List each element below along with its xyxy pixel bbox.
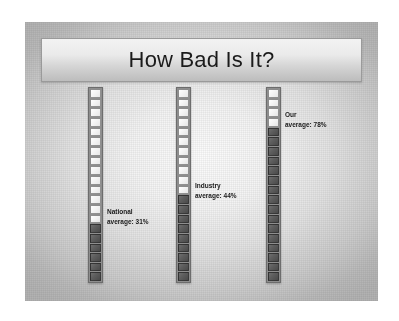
gauge-label-industry: Industry average: 44%	[195, 181, 237, 201]
gauge-segment	[268, 176, 279, 185]
gauge-label-our-line1: Our	[285, 110, 327, 120]
gauge-segment	[178, 99, 189, 108]
gauge-segment	[90, 157, 101, 166]
gauge-segment	[178, 147, 189, 156]
gauge-label-national: National average: 31%	[107, 207, 149, 227]
gauge-segment	[90, 176, 101, 185]
gauge-segment	[268, 195, 279, 204]
gauge-segment	[178, 253, 189, 262]
gauge-segment	[178, 137, 189, 146]
gauge-segment	[90, 205, 101, 214]
gauge-segment	[178, 128, 189, 137]
gauge-segment	[178, 272, 189, 281]
gauge-segment	[178, 157, 189, 166]
gauge-segment	[90, 244, 101, 253]
gauge-segment	[90, 234, 101, 243]
gauge-segment	[178, 195, 189, 204]
page-title: How Bad Is It?	[129, 49, 275, 71]
gauge-segment	[178, 118, 189, 127]
gauge-segment	[268, 118, 279, 127]
gauge-segment	[268, 166, 279, 175]
gauge-segment	[90, 195, 101, 204]
gauge-segment	[178, 89, 189, 98]
gauge-segment	[90, 253, 101, 262]
gauge-bar-industry	[176, 87, 191, 283]
gauge-segment	[178, 215, 189, 224]
gauge-segment	[268, 234, 279, 243]
gauge-label-industry-line1: Industry	[195, 181, 237, 191]
gauge-segment	[90, 128, 101, 137]
gauge-segment	[268, 186, 279, 195]
gauge-segment	[268, 205, 279, 214]
gauge-segment	[90, 99, 101, 108]
gauge-segment	[268, 137, 279, 146]
gauge-label-national-line1: National	[107, 207, 149, 217]
gauge-segment	[268, 244, 279, 253]
gauge-segment	[90, 224, 101, 233]
gauge-segment	[268, 253, 279, 262]
gauge-segment	[178, 176, 189, 185]
gauge-segment	[268, 147, 279, 156]
gauge-segment	[90, 118, 101, 127]
gauge-segment	[90, 272, 101, 281]
gauge-segment	[268, 128, 279, 137]
gauge-segment	[268, 272, 279, 281]
presentation-slide: How Bad Is It? National average: 31% Ind…	[25, 22, 378, 301]
gauge-segment	[268, 89, 279, 98]
gauge-bar-national	[88, 87, 103, 283]
gauge-segment	[90, 137, 101, 146]
gauge-segment	[90, 147, 101, 156]
slide-screenshot: How Bad Is It? National average: 31% Ind…	[0, 0, 399, 321]
gauge-segment	[268, 99, 279, 108]
gauge-segment	[268, 263, 279, 272]
gauge-segment	[178, 224, 189, 233]
gauge-label-our-line2: average: 78%	[285, 120, 327, 130]
slide-title-box: How Bad Is It?	[41, 38, 362, 82]
gauge-segment	[178, 186, 189, 195]
gauge-segment	[90, 89, 101, 98]
gauge-segment	[90, 108, 101, 117]
gauge-segment	[90, 186, 101, 195]
gauge-segment	[268, 215, 279, 224]
gauge-segment	[178, 166, 189, 175]
gauge-segment	[178, 234, 189, 243]
gauge-segment	[90, 263, 101, 272]
gauge-segment	[178, 263, 189, 272]
gauge-label-our: Our average: 78%	[285, 110, 327, 130]
gauge-label-industry-line2: average: 44%	[195, 191, 237, 201]
gauge-segment	[90, 166, 101, 175]
gauge-segment	[178, 205, 189, 214]
gauge-bar-our	[266, 87, 281, 283]
gauge-segment	[178, 244, 189, 253]
gauge-segment	[178, 108, 189, 117]
gauge-segment	[268, 157, 279, 166]
gauge-segment	[268, 108, 279, 117]
gauge-label-national-line2: average: 31%	[107, 217, 149, 227]
gauge-segment	[268, 224, 279, 233]
gauge-segment	[90, 215, 101, 224]
